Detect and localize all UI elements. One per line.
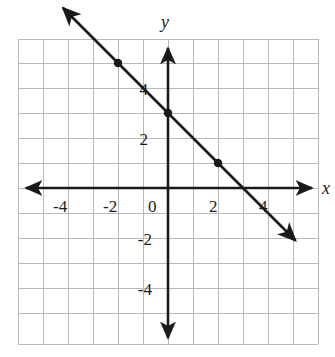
coordinate-plane-figure: -4 -2 0 2 4 4 2 -2 -4 x y xyxy=(0,0,335,357)
x-tick-label-4: 4 xyxy=(259,197,268,216)
data-point xyxy=(164,109,172,117)
y-tick-label-neg2: -2 xyxy=(138,230,152,249)
data-point xyxy=(214,159,222,167)
x-axis-label: x xyxy=(321,178,330,198)
x-tick-label-neg2: -2 xyxy=(103,197,117,216)
x-tick-label-neg4: -4 xyxy=(53,197,68,216)
y-tick-label-4: 4 xyxy=(140,80,149,99)
x-tick-label-2: 2 xyxy=(209,197,218,216)
data-point xyxy=(114,59,122,67)
y-tick-label-2: 2 xyxy=(140,130,149,149)
y-tick-label-neg4: -4 xyxy=(138,280,153,299)
graph-canvas: -4 -2 0 2 4 4 2 -2 -4 x y xyxy=(0,0,335,357)
y-axis-label: y xyxy=(159,12,169,32)
x-tick-label-zero: 0 xyxy=(148,197,157,216)
